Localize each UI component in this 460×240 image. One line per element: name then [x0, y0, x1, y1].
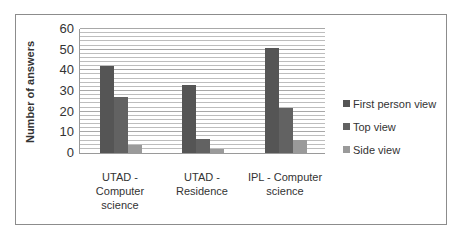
y-tick-label: 20 [46, 105, 74, 118]
gridline [80, 53, 325, 54]
gridline [80, 65, 325, 66]
x-tick-label: UTAD -Computerscience [80, 170, 160, 212]
gridline [80, 49, 325, 50]
gridline [80, 69, 325, 70]
x-tick-label: UTAD -Residence [162, 170, 242, 198]
gridline [80, 28, 325, 29]
y-tick-label: 50 [46, 43, 74, 56]
x-tick-label-line: science [80, 198, 160, 212]
bar-first-person-view [100, 66, 114, 153]
bar-side-view [128, 145, 142, 153]
legend-item: Top view [343, 115, 436, 138]
y-tick-label: 40 [46, 63, 74, 76]
legend-swatch-icon [343, 123, 350, 130]
bar-side-view [293, 140, 307, 153]
legend-label: Side view [353, 144, 400, 156]
gridline [80, 90, 325, 91]
gridline [80, 82, 325, 83]
gridline [80, 86, 325, 87]
gridline [80, 61, 325, 62]
legend-item: Side view [343, 138, 436, 161]
plot-area [79, 29, 325, 154]
bar-top-view [114, 97, 128, 153]
y-axis-label: Number of answers [24, 41, 36, 143]
x-tick-label-line: IPL - Computer [245, 170, 325, 184]
bar-top-view [196, 139, 210, 153]
y-tick-label: 60 [46, 22, 74, 35]
x-tick-label-line: Computer [80, 184, 160, 198]
gridline [80, 32, 325, 33]
bar-side-view [210, 149, 224, 153]
legend-label: Top view [353, 121, 396, 133]
gridline [80, 57, 325, 58]
gridline [80, 73, 325, 74]
gridline [80, 94, 325, 95]
bar-top-view [279, 108, 293, 153]
y-tick-label: 10 [46, 125, 74, 138]
y-tick-label: 30 [46, 84, 74, 97]
gridline [80, 78, 325, 79]
legend-label: First person view [353, 98, 436, 110]
legend: First person viewTop viewSide view [343, 92, 436, 161]
gridline [80, 36, 325, 37]
y-tick-label: 0 [46, 146, 74, 159]
gridline [80, 45, 325, 46]
bar-first-person-view [182, 85, 196, 153]
x-tick-label-line: UTAD - [80, 170, 160, 184]
bar-first-person-view [265, 48, 279, 153]
x-tick-label: IPL - Computerscience [245, 170, 325, 198]
legend-item: First person view [343, 92, 436, 115]
x-tick-label-line: science [245, 184, 325, 198]
x-tick-label-line: Residence [162, 184, 242, 198]
x-tick-label-line: UTAD - [162, 170, 242, 184]
legend-swatch-icon [343, 146, 350, 153]
gridline [80, 40, 325, 41]
legend-swatch-icon [343, 100, 350, 107]
